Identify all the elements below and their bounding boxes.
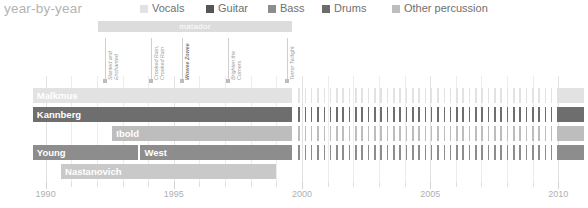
table-row[interactable]: Kannberg <box>0 107 588 122</box>
member-name-label: Malkmus <box>37 88 78 103</box>
timeline-segment-striped[interactable] <box>297 107 556 122</box>
legend-swatch-icon <box>268 5 276 13</box>
timeline-segment[interactable]: West <box>140 145 291 160</box>
timeline-stripe <box>462 145 464 160</box>
timeline-stripe <box>475 88 477 103</box>
timeline-stripe <box>444 145 446 160</box>
legend-item-guitar[interactable]: Guitar <box>206 2 248 16</box>
album-title-line: Crooked Rain <box>159 46 165 80</box>
timeline-segment[interactable]: Nastanovich <box>61 164 276 179</box>
timeline-stripe <box>513 145 515 160</box>
timeline-stripe <box>425 88 427 103</box>
timeline-stripe <box>374 107 376 122</box>
timeline-segment[interactable]: Young <box>33 145 138 160</box>
album-title-line: Slanted and <box>107 51 113 80</box>
album-title: Terror Twilight <box>289 46 295 80</box>
timeline-segment[interactable]: Ibold <box>112 126 291 141</box>
timeline-segment[interactable] <box>557 145 584 160</box>
timeline-stripe <box>298 107 300 122</box>
axis-tick-minor <box>405 182 406 187</box>
legend-swatch-icon <box>140 5 148 13</box>
timeline-segment[interactable]: Malkmus <box>33 88 292 103</box>
legend-item-bass[interactable]: Bass <box>268 2 304 16</box>
legend-item-label: Other percussion <box>404 2 488 15</box>
table-row[interactable]: YoungWest <box>0 145 588 160</box>
album-title-line: Wowee Zowee <box>184 43 190 80</box>
timeline-stripe <box>355 126 357 141</box>
timeline-stripe <box>349 145 351 160</box>
axis-tick-minor <box>71 182 72 187</box>
timeline-stripe <box>500 107 502 122</box>
timeline-stripe <box>551 145 553 160</box>
timeline-segment-striped[interactable] <box>297 126 556 141</box>
timeline-stripe <box>399 145 401 160</box>
timeline-stripe <box>494 145 496 160</box>
legend-item-label: Drums <box>334 2 366 15</box>
timeline-segment[interactable] <box>557 107 584 122</box>
axis-tick-minor <box>507 182 508 187</box>
timeline-stripe <box>545 88 547 103</box>
timeline-stripe <box>374 88 376 103</box>
timeline-stripe <box>368 126 370 141</box>
timeline-stripe <box>361 107 363 122</box>
table-row[interactable]: Malkmus <box>0 88 588 103</box>
timeline-stripe <box>551 126 553 141</box>
table-row[interactable]: Ibold <box>0 126 588 141</box>
legend-item-drums[interactable]: Drums <box>322 2 366 16</box>
legend-item-other-percussion[interactable]: Other percussion <box>392 2 488 16</box>
timeline-segment[interactable] <box>557 88 584 103</box>
timeline-stripe <box>412 88 414 103</box>
axis-tick-minor <box>379 182 380 187</box>
timeline-stripe <box>330 145 332 160</box>
record-label-band: matador <box>98 21 292 32</box>
timeline-stripe <box>545 126 547 141</box>
axis-tick-minor <box>481 182 482 187</box>
timeline-stripe <box>418 126 420 141</box>
album-title: Slanted andEnchanted <box>107 51 119 80</box>
timeline-stripe <box>311 145 313 160</box>
axis-tick-minor <box>97 182 98 187</box>
axis-tick-minor <box>225 182 226 187</box>
timeline-stripe <box>349 126 351 141</box>
timeline-stripe <box>507 126 509 141</box>
timeline-segment-striped[interactable] <box>297 88 556 103</box>
timeline-stripe <box>380 126 382 141</box>
timeline-stripe <box>399 126 401 141</box>
timeline-stripe <box>437 145 439 160</box>
timeline-stripe <box>456 145 458 160</box>
timeline-segment-striped[interactable] <box>297 145 556 160</box>
timeline-segment[interactable] <box>557 126 584 141</box>
timeline-stripe <box>513 107 515 122</box>
timeline-stripe <box>342 107 344 122</box>
timeline-stripe <box>393 107 395 122</box>
timeline-stripe <box>488 88 490 103</box>
record-label-name: matador <box>98 21 292 32</box>
axis-tick-minor <box>328 182 329 187</box>
timeline-stripe <box>469 88 471 103</box>
timeline-stripe <box>437 88 439 103</box>
timeline-stripe <box>305 126 307 141</box>
timeline-stripe <box>462 126 464 141</box>
timeline-stripe <box>336 88 338 103</box>
timeline-stripe <box>393 88 395 103</box>
timeline-stripe <box>380 88 382 103</box>
axis-tick-minor <box>353 182 354 187</box>
timeline-segment[interactable]: Kannberg <box>33 107 292 122</box>
timeline-stripe <box>519 107 521 122</box>
chart-header: year-by-year VocalsGuitarBassDrumsOther … <box>0 0 588 20</box>
timeline-stripe <box>475 107 477 122</box>
timeline-stripe <box>431 107 433 122</box>
legend-item-vocals[interactable]: Vocals <box>140 2 184 16</box>
timeline-stripe <box>324 88 326 103</box>
album-marker-line <box>151 38 152 82</box>
timeline-stripe <box>342 88 344 103</box>
timeline-stripe <box>425 145 427 160</box>
axis-tick-major <box>46 182 47 189</box>
table-row[interactable]: Nastanovich <box>0 164 588 179</box>
axis-tick-major <box>558 182 559 189</box>
timeline-stripe <box>444 126 446 141</box>
timeline-stripe <box>387 126 389 141</box>
timeline-stripe <box>456 126 458 141</box>
timeline-stripe <box>317 88 319 103</box>
timeline-stripe <box>393 145 395 160</box>
